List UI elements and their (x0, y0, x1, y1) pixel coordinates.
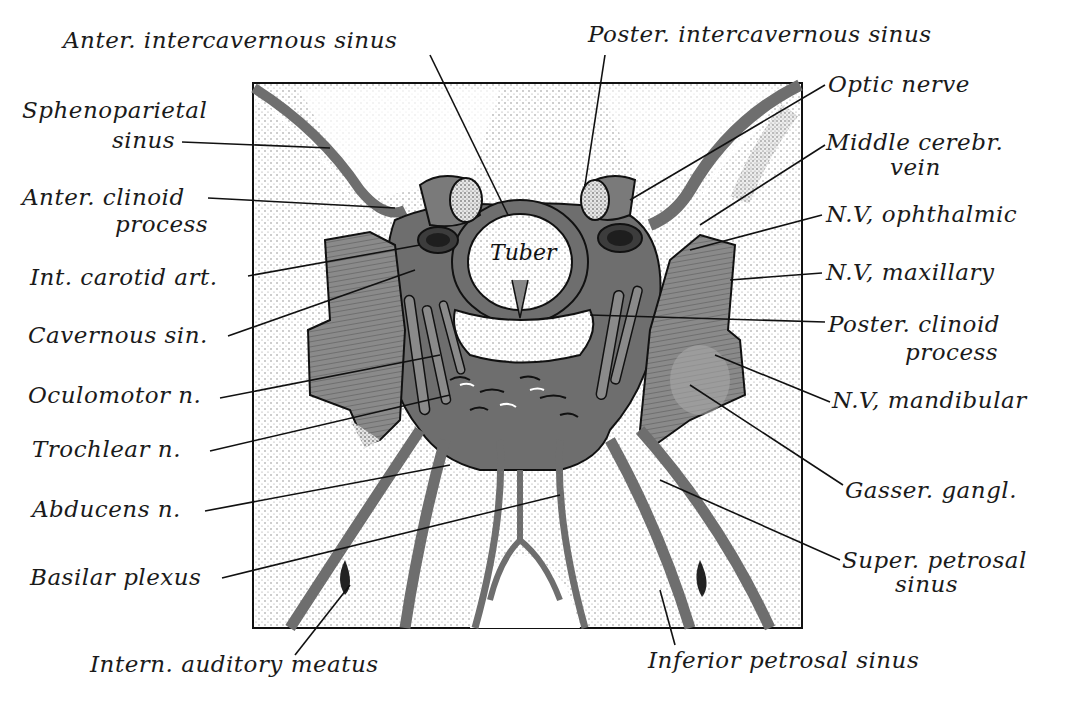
label-nv-ophthalmic: N.V, ophthalmic (826, 202, 1017, 227)
label-poster-intercavernous-sinus: Poster. intercavernous sinus (588, 22, 932, 47)
label-poster-clinoid-process: process (905, 340, 998, 365)
label-basilar-plexus: Basilar plexus (30, 565, 201, 590)
label-poster-clinoid: Poster. clinoid (828, 312, 1000, 337)
label-int-carotid-art: Int. carotid art. (30, 265, 218, 290)
label-trochlear-n: Trochlear n. (32, 437, 181, 462)
label-nv-mandibular: N.V, mandibular (832, 388, 1027, 413)
label-anter-clinoid-process: process (115, 212, 208, 237)
label-nv-maxillary: N.V, maxillary (826, 260, 994, 285)
label-cavernous-sin: Cavernous sin. (28, 323, 208, 348)
label-anter-intercavernous-sinus: Anter. intercavernous sinus (63, 28, 397, 53)
anatomical-figure: Tuber Anter. intercavernous sinus Poster… (0, 0, 1069, 701)
label-super-petrosal: Super. petrosal (842, 548, 1027, 573)
label-optic-nerve: Optic nerve (828, 72, 970, 97)
label-anter-clinoid: Anter. clinoid (22, 185, 185, 210)
label-middle-cerebr: Middle cerebr. (826, 130, 1003, 155)
label-inferior-petrosal-sinus: Inferior petrosal sinus (648, 648, 919, 673)
label-abducens-n: Abducens n. (32, 497, 181, 522)
label-sphenoparietal-sinus: sinus (112, 128, 175, 153)
tuber-label: Tuber (490, 240, 556, 265)
label-sphenoparietal: Sphenoparietal (22, 98, 207, 123)
label-gasser-gangl: Gasser. gangl. (845, 478, 1017, 503)
label-oculomotor-n: Oculomotor n. (28, 383, 201, 408)
label-super-petrosal-sinus: sinus (895, 572, 958, 597)
label-middle-cerebr-vein: vein (890, 155, 941, 180)
label-intern-auditory-meatus: Intern. auditory meatus (90, 652, 379, 677)
